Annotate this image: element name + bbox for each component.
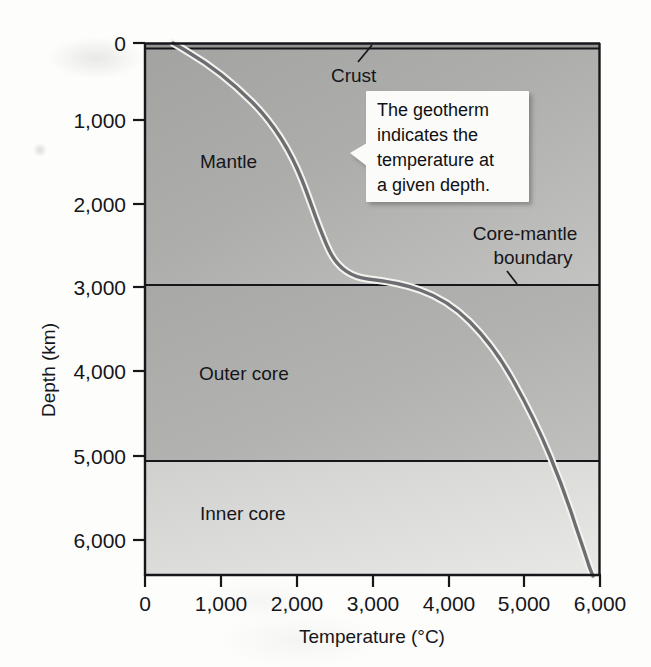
- x-tick-label-0: 0: [139, 592, 151, 615]
- callout-line-2: indicates the: [377, 125, 478, 145]
- region-label-inner-core: Inner core: [200, 503, 286, 524]
- y-tick-label-0: 0: [114, 32, 126, 55]
- x-tick-label-4000: 4,000: [423, 592, 476, 615]
- callout-line-4: a given depth.: [377, 175, 490, 195]
- core-mantle-boundary-label-line1: Core-mantle: [473, 223, 578, 244]
- y-tick-label-4000: 4,000: [73, 360, 126, 383]
- y-axis-ticks: [133, 43, 145, 540]
- y-tick-label-5000: 5,000: [73, 445, 126, 468]
- y-tick-label-6000: 6,000: [73, 529, 126, 552]
- y-axis-title: Depth (km): [38, 323, 59, 417]
- x-tick-label-3000: 3,000: [347, 592, 400, 615]
- geotherm-callout: The geotherm indicates the temperature a…: [350, 91, 529, 202]
- y-axis-tick-labels: 0 1,000 2,000 3,000 4,000 5,000 6,000: [73, 32, 126, 552]
- region-label-mantle: Mantle: [200, 151, 257, 172]
- x-axis-ticks: [145, 575, 600, 587]
- y-tick-label-3000: 3,000: [73, 276, 126, 299]
- x-axis-title: Temperature (°C): [299, 626, 445, 647]
- crust-label: Crust: [331, 65, 377, 86]
- x-tick-label-6000: 6,000: [574, 592, 627, 615]
- y-tick-label-1000: 1,000: [73, 109, 126, 132]
- geotherm-figure: 0 1,000 2,000 3,000 4,000 5,000 6,000 0 …: [0, 0, 651, 667]
- geotherm-chart: 0 1,000 2,000 3,000 4,000 5,000 6,000 0 …: [0, 0, 651, 667]
- region-label-outer-core: Outer core: [199, 363, 289, 384]
- x-axis-tick-labels: 0 1,000 2,000 3,000 4,000 5,000 6,000: [139, 592, 626, 615]
- callout-line-3: temperature at: [377, 150, 494, 170]
- core-mantle-boundary-label-line2: boundary: [493, 247, 573, 268]
- y-tick-label-2000: 2,000: [73, 193, 126, 216]
- x-tick-label-1000: 1,000: [195, 592, 248, 615]
- x-tick-label-5000: 5,000: [498, 592, 551, 615]
- x-tick-label-2000: 2,000: [271, 592, 324, 615]
- callout-line-1: The geotherm: [377, 100, 489, 120]
